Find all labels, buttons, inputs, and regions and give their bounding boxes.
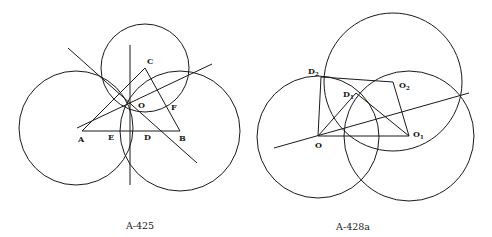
point-label-o2: O2: [399, 80, 410, 91]
right-segment-O-D2: [318, 77, 321, 136]
right-segment-D1-O1: [356, 93, 409, 136]
point-label-b: B: [179, 133, 186, 143]
point-label-d2: D2: [308, 66, 319, 77]
point-label-e: E: [108, 132, 114, 142]
point-label-o: O: [315, 140, 322, 150]
left-diagonal-bisector: [68, 48, 197, 163]
point-label-a: A: [77, 134, 85, 144]
caption-a-425: A-425: [125, 220, 154, 231]
point-label-d: D: [144, 132, 151, 142]
point-label-o: O: [138, 100, 145, 110]
figure-a-425: AEDBCOF: [19, 24, 240, 191]
caption-a-428a: A-428a: [335, 221, 370, 232]
right-segment-D2-O2: [321, 77, 393, 82]
figure-a-428a: OO1O2D1D2: [257, 13, 474, 201]
diagram-canvas: AEDBCOF OO1O2D1D2 A-425 A-428a: [0, 0, 492, 237]
right-secant-line: [274, 93, 469, 148]
point-label-o1: O1: [413, 129, 424, 140]
point-label-f: F: [171, 102, 177, 112]
point-label-c: C: [147, 56, 153, 66]
point-label-d1: D1: [343, 89, 354, 100]
left-left-circle: [19, 71, 133, 185]
